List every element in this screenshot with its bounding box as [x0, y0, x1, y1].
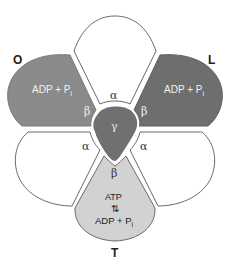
- label-T: T: [111, 246, 118, 260]
- top-alpha-label: α: [110, 89, 117, 102]
- lower-right-alpha-label: α: [140, 140, 147, 153]
- left-beta-label: β: [84, 105, 90, 118]
- bottom-beta-subscript: i: [132, 221, 134, 228]
- bottom-beta-ligand: ADP + P: [95, 215, 132, 226]
- equilibrium-arrows-icon: ⇅: [111, 203, 119, 214]
- label-L: L: [208, 53, 215, 67]
- gamma-label: γ: [111, 120, 118, 133]
- bottom-beta-label: β: [111, 167, 117, 180]
- right-beta-ligand: ADP + P: [164, 84, 202, 95]
- bottom-beta-adp: ADP + Pi: [95, 215, 133, 228]
- left-beta-ligand: ADP + P: [32, 84, 70, 95]
- left-beta-subscript: i: [70, 90, 72, 97]
- bottom-beta-atp: ATP: [105, 192, 122, 202]
- label-O: O: [13, 53, 22, 67]
- right-beta-label: β: [141, 105, 147, 118]
- right-beta-subscript: i: [202, 90, 204, 97]
- lower-left-alpha-label: α: [82, 140, 89, 153]
- left-beta-content: ADP + Pi: [32, 84, 72, 97]
- right-beta-content: ADP + Pi: [164, 84, 204, 97]
